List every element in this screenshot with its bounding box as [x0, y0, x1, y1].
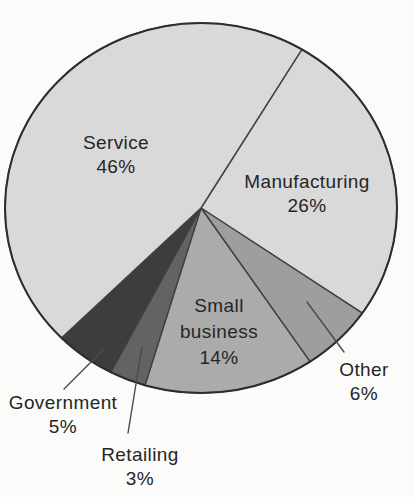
label-service: Service 46%	[83, 131, 149, 179]
label-service-pct: 46%	[83, 155, 149, 179]
label-other-pct: 6%	[339, 382, 389, 406]
label-service-name: Service	[83, 131, 149, 155]
label-small-business: Small business 14%	[180, 293, 258, 371]
pie-chart-figure: Service 46% Manufacturing 26% Small busi…	[0, 0, 414, 497]
label-small-business-line1: Small	[180, 293, 258, 319]
label-retailing: Retailing 3%	[101, 443, 179, 491]
label-manufacturing-pct: 26%	[244, 194, 370, 218]
label-small-business-pct: 14%	[180, 345, 258, 371]
label-manufacturing: Manufacturing 26%	[244, 170, 370, 218]
label-manufacturing-name: Manufacturing	[244, 170, 370, 194]
label-government: Government 5%	[9, 391, 118, 439]
label-other: Other 6%	[339, 358, 389, 406]
label-other-name: Other	[339, 358, 389, 382]
label-government-name: Government	[9, 391, 118, 415]
label-government-pct: 5%	[9, 415, 118, 439]
label-small-business-line2: business	[180, 319, 258, 345]
label-retailing-pct: 3%	[101, 467, 179, 491]
label-retailing-name: Retailing	[101, 443, 179, 467]
